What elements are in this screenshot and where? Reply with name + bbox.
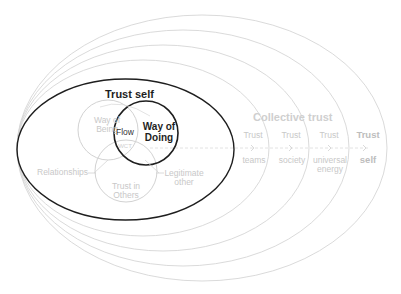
trust-diagram-canvas	[0, 0, 401, 294]
ring-society-top: Trust	[278, 131, 304, 140]
ring-self-bottom: self	[356, 155, 380, 165]
arrow-head-universal	[328, 145, 331, 151]
ring-self-top: Trust	[354, 130, 382, 140]
arrow-head-self	[363, 145, 366, 151]
legitimate-other-label: Legitimate other	[162, 169, 206, 188]
ring-universal-top: Trust	[316, 131, 342, 140]
trust-in-others-label: Trust in Others	[104, 182, 148, 201]
flow-label: Flow	[115, 128, 135, 137]
venn-center-label: WCT	[116, 143, 134, 150]
trust-self-title: Trust self	[105, 88, 154, 100]
way-of-doing-label: Way of Doing	[138, 121, 180, 143]
ring-teams-top: Trust	[240, 131, 266, 140]
ring-society-bottom: society	[276, 156, 308, 165]
ring-universal-bottom: universal energy	[310, 156, 350, 175]
relationships-label: Relationships	[37, 168, 88, 177]
ring-teams-bottom: teams	[238, 156, 270, 165]
collective-trust-title: Collective trust	[253, 111, 332, 123]
